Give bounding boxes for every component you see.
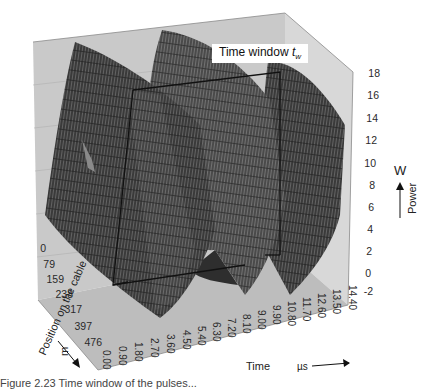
time-axis-arrow (312, 359, 350, 367)
time-tick: 3.60 (165, 334, 176, 353)
power-tick: 8 (357, 179, 375, 191)
time-window-subscript: w (295, 52, 301, 61)
power-tick: 4 (355, 223, 373, 235)
power-tick: 10 (358, 157, 376, 169)
time-window-label: Time window tw (212, 44, 308, 63)
time-tick: 2.70 (149, 338, 160, 357)
position-unit-label: m (58, 347, 70, 356)
power-tick: 12 (359, 134, 377, 146)
time-tick: 9.00 (256, 310, 267, 329)
time-tick: 9.90 (271, 305, 282, 324)
time-tick: 1.80 (133, 342, 144, 361)
power-tick: 18 (362, 67, 380, 79)
time-tick: 0.90 (117, 346, 128, 365)
time-tick: 14.40 (347, 285, 358, 310)
power-tick: 14 (360, 112, 378, 124)
time-tick: 5.40 (196, 326, 207, 345)
time-tick: 11.70 (301, 297, 312, 321)
time-tick: 8.10 (241, 314, 252, 333)
figure-caption: Figure 2.23 Time window of the pulses... (0, 377, 197, 389)
position-tick: 397 (68, 320, 92, 332)
position-tick: 0 (22, 242, 46, 254)
time-tick: 6.30 (211, 322, 222, 341)
time-tick: 12.60 (316, 293, 327, 318)
time-tick: 4.50 (181, 330, 192, 349)
power-unit-label: W (394, 163, 406, 178)
time-tick: 0.00 (101, 350, 112, 369)
time-unit-label: µs (297, 361, 308, 372)
power-tick: 0 (353, 267, 371, 279)
power-axis-arrow (396, 182, 404, 218)
time-tick: 7.20 (226, 318, 237, 337)
position-tick: 79 (31, 258, 55, 270)
position-tick: 476 (78, 336, 102, 348)
power-tick: 16 (361, 89, 379, 101)
power-axis-label: Power (406, 183, 418, 214)
time-tick: 13.50 (331, 289, 342, 314)
time-tick: 10.80 (286, 301, 297, 326)
power-tick: 2 (354, 245, 372, 257)
position-tick: 159 (40, 273, 64, 285)
time-window-text: Time window (219, 45, 292, 59)
time-axis-label: Time (246, 360, 270, 372)
power-tick: 6 (356, 201, 374, 213)
